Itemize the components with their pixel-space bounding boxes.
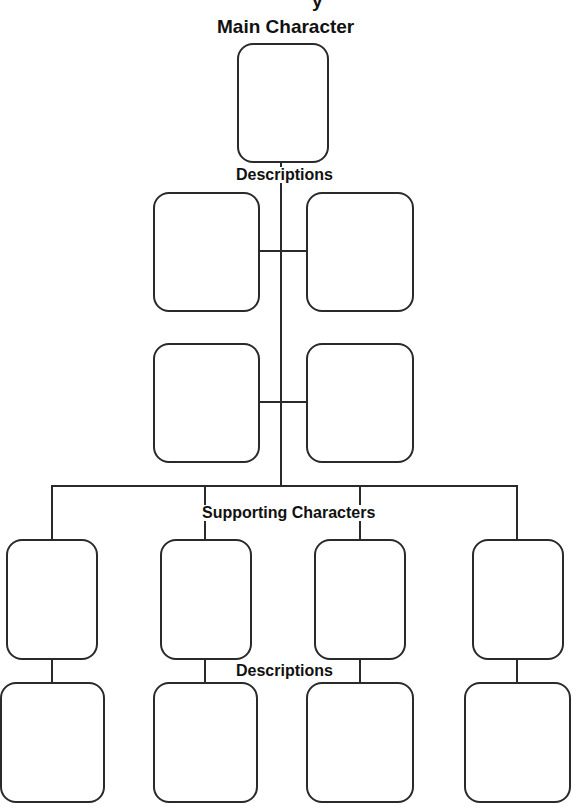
descriptions-label-bottom: Descriptions <box>236 663 333 679</box>
description-box-2[interactable] <box>306 192 414 312</box>
supporting-description-box-3[interactable] <box>306 682 414 803</box>
descriptions-label-top: Descriptions <box>235 167 334 183</box>
character-map-diagram: y Main Character Descriptions Sup <box>0 0 579 808</box>
supporting-character-box-4[interactable] <box>472 539 564 660</box>
supporting-character-box-3[interactable] <box>314 539 406 660</box>
supporting-description-box-4[interactable] <box>464 682 571 803</box>
supporting-character-box-1[interactable] <box>6 539 98 660</box>
main-character-box[interactable] <box>237 43 329 163</box>
supporting-description-box-1[interactable] <box>0 682 105 803</box>
description-box-4[interactable] <box>306 343 414 463</box>
description-box-1[interactable] <box>153 192 260 312</box>
description-box-3[interactable] <box>153 343 260 463</box>
supporting-characters-label: Supporting Characters <box>201 505 376 521</box>
supporting-description-box-2[interactable] <box>153 682 258 803</box>
main-character-label: Main Character <box>217 17 354 36</box>
supporting-character-box-2[interactable] <box>160 539 252 660</box>
